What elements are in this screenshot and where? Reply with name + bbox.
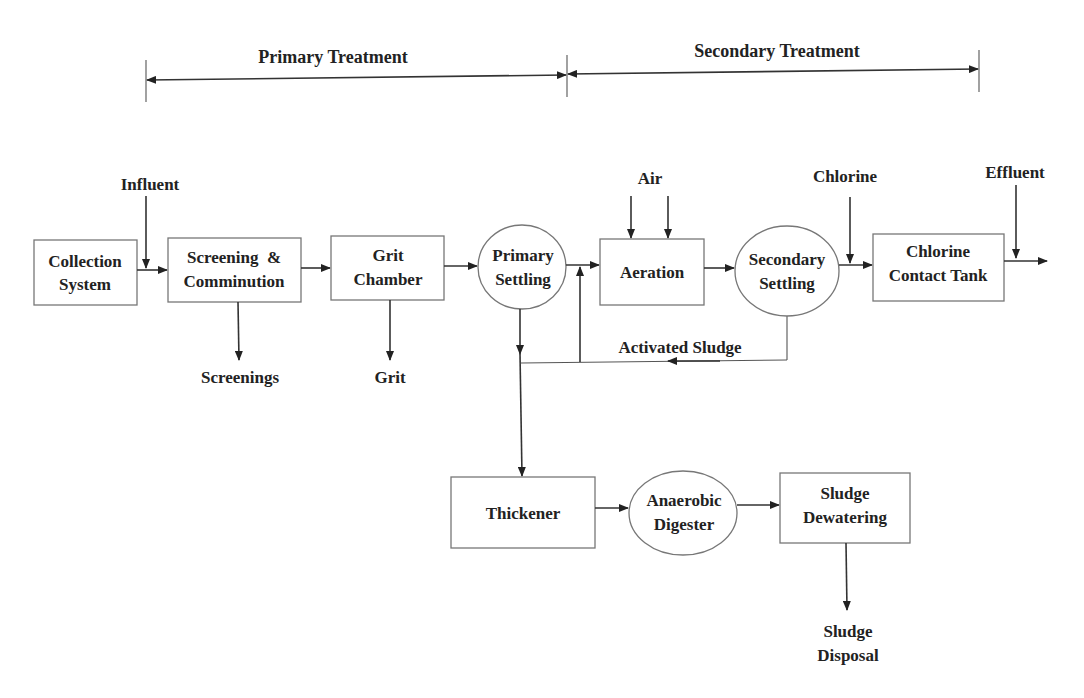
node-label: Sludge: [820, 484, 870, 503]
secondary-treatment-label: Secondary Treatment: [694, 41, 859, 61]
sludge-disposal-label-line1: Sludge: [823, 622, 873, 641]
node-label: Secondary: [749, 250, 826, 269]
secondary-span-arrow: [568, 69, 978, 74]
node-label: Aeration: [620, 263, 685, 282]
influent-label: Influent: [121, 175, 180, 194]
node-label: Contact Tank: [889, 266, 988, 285]
node-collection-system: Collection System: [34, 240, 137, 305]
wastewater-treatment-flow-diagram: Primary Treatment Secondary Treatment Co…: [0, 0, 1084, 698]
node-label: Thickener: [486, 504, 561, 523]
node-primary-settling: Primary Settling: [478, 225, 566, 309]
primary-treatment-span: Primary Treatment: [146, 47, 567, 102]
primary-span-arrow: [147, 75, 566, 80]
node-anaerobic-digester: Anaerobic Digester: [629, 471, 737, 555]
node-label: Settling: [759, 274, 815, 293]
air-label: Air: [638, 169, 663, 188]
node-label: Screening &: [187, 248, 281, 267]
node-label: Dewatering: [803, 508, 888, 527]
node-label: Digester: [654, 515, 715, 534]
node-label: Settling: [495, 270, 551, 289]
node-label: Grit: [372, 246, 403, 265]
node-grit-chamber: Grit Chamber: [331, 236, 444, 300]
primary-treatment-label: Primary Treatment: [258, 47, 407, 67]
node-label: Anaerobic: [646, 491, 722, 510]
screenings-arrow: [238, 302, 239, 360]
node-label: Chamber: [354, 270, 423, 289]
node-label: Primary: [492, 246, 554, 265]
grit-label: Grit: [374, 368, 405, 387]
node-label: Comminution: [183, 272, 285, 291]
activated-sludge-label: Activated Sludge: [618, 338, 742, 357]
node-sludge-dewatering: Sludge Dewatering: [780, 473, 910, 543]
screenings-label: Screenings: [201, 368, 279, 387]
node-label: System: [59, 275, 111, 294]
sludge-disposal-label-line2: Disposal: [817, 646, 879, 665]
sludge-return-line: [521, 360, 787, 363]
node-secondary-settling: Secondary Settling: [735, 226, 839, 316]
sludge-disposal-arrow: [846, 543, 847, 610]
chlorine-label: Chlorine: [813, 167, 878, 186]
node-thickener: Thickener: [451, 477, 595, 548]
secondary-treatment-span: Secondary Treatment: [568, 41, 979, 92]
node-screening-comminution: Screening & Comminution: [168, 238, 301, 302]
effluent-label: Effluent: [985, 163, 1045, 182]
node-label: Chlorine: [906, 242, 971, 261]
node-chlorine-contact-tank: Chlorine Contact Tank: [873, 234, 1004, 301]
sludge-to-thickener-arrow: [520, 354, 522, 476]
node-label: Collection: [48, 252, 122, 271]
node-aeration: Aeration: [600, 239, 704, 305]
